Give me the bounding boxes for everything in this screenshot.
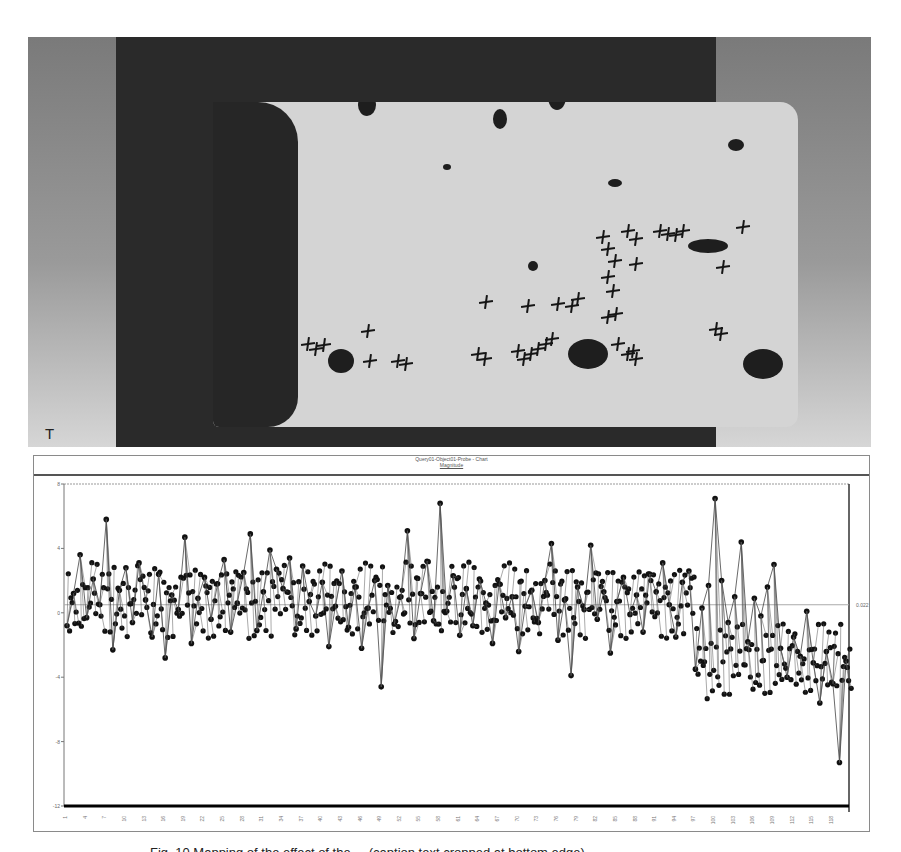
data-point bbox=[763, 633, 768, 638]
x-tick-label: 91 bbox=[651, 816, 657, 822]
cross-marker-icon bbox=[606, 284, 620, 298]
data-point bbox=[312, 581, 317, 586]
cross-marker-icon bbox=[629, 232, 643, 246]
cross-marker-icon bbox=[609, 307, 623, 321]
x-tick-label: 55 bbox=[415, 816, 421, 822]
y-tick-label: -8 bbox=[42, 739, 60, 745]
cross-marker-icon bbox=[317, 338, 331, 352]
cross-marker-icon bbox=[478, 352, 492, 366]
x-tick-label: 52 bbox=[396, 816, 402, 822]
x-tick-label: 16 bbox=[160, 816, 166, 822]
data-point bbox=[389, 590, 394, 595]
y-tick-label: -12 bbox=[42, 803, 60, 809]
x-tick-label: 4 bbox=[82, 816, 88, 819]
data-point bbox=[430, 589, 435, 594]
damage-spot bbox=[328, 349, 354, 373]
data-point bbox=[585, 589, 590, 594]
cross-marker-icon bbox=[629, 257, 643, 271]
damage-spot bbox=[358, 102, 376, 116]
x-tick-label: 13 bbox=[141, 816, 147, 822]
y-tick-label: 8 bbox=[42, 481, 60, 487]
reference-line-label: 0.022 bbox=[856, 602, 869, 608]
cross-marker-icon bbox=[551, 297, 565, 311]
cross-marker-icon bbox=[716, 260, 730, 274]
cross-marker-icon bbox=[571, 292, 585, 306]
data-point bbox=[211, 634, 216, 639]
damage-spot bbox=[743, 349, 783, 379]
x-tick-label: 115 bbox=[808, 816, 814, 824]
data-point bbox=[545, 593, 550, 598]
x-tick-label: 64 bbox=[474, 816, 480, 822]
data-point bbox=[201, 628, 206, 633]
x-tick-label: 94 bbox=[671, 816, 677, 822]
data-point bbox=[813, 678, 818, 683]
data-point bbox=[393, 619, 398, 624]
data-point bbox=[613, 622, 618, 627]
data-point bbox=[88, 600, 93, 605]
x-tick-label: 37 bbox=[298, 816, 304, 822]
x-tick-label: 79 bbox=[573, 816, 579, 822]
cross-marker-icon bbox=[626, 344, 640, 358]
data-point bbox=[134, 611, 139, 616]
x-tick-label: 49 bbox=[376, 816, 382, 822]
data-point bbox=[626, 586, 631, 591]
data-point bbox=[638, 605, 643, 610]
data-point bbox=[371, 609, 376, 614]
data-point bbox=[633, 611, 638, 616]
cross-marker-icon bbox=[361, 324, 375, 338]
x-tick-label: 76 bbox=[553, 816, 559, 822]
damage-spot bbox=[528, 261, 538, 271]
data-point bbox=[423, 595, 428, 600]
x-tick-label: 85 bbox=[612, 816, 618, 822]
data-point bbox=[801, 656, 806, 661]
x-tick-label: 25 bbox=[219, 816, 225, 822]
y-tick-label: 4 bbox=[42, 545, 60, 551]
x-tick-label: 34 bbox=[278, 816, 284, 822]
figure-caption: Fig. 10 Mapping of the effect of the ...… bbox=[150, 842, 750, 852]
data-point bbox=[220, 609, 225, 614]
cross-marker-icon bbox=[714, 327, 728, 341]
x-tick-label: 118 bbox=[828, 816, 834, 824]
x-tick-label: 109 bbox=[769, 816, 775, 825]
x-tick-label: 61 bbox=[455, 816, 461, 822]
x-tick-label: 112 bbox=[789, 816, 795, 824]
data-point bbox=[803, 690, 808, 695]
damage-spot bbox=[568, 339, 608, 369]
data-point bbox=[322, 562, 327, 567]
magnitude-plot: 1471013161922252831343740434649525558616… bbox=[34, 456, 869, 831]
data-point bbox=[487, 592, 492, 597]
x-tick-label: 100 bbox=[710, 816, 716, 825]
data-point bbox=[651, 572, 656, 577]
data-point bbox=[836, 651, 841, 656]
scan-plate-region bbox=[213, 102, 798, 427]
data-point bbox=[749, 642, 754, 647]
data-point bbox=[402, 610, 407, 615]
cross-marker-icon bbox=[736, 220, 750, 234]
scan-image: T bbox=[28, 37, 871, 447]
data-point bbox=[447, 595, 452, 600]
cross-marker-icon bbox=[601, 270, 615, 284]
x-tick-label: 28 bbox=[239, 816, 245, 822]
x-tick-label: 10 bbox=[121, 816, 127, 822]
data-point bbox=[369, 593, 374, 598]
x-tick-label: 88 bbox=[632, 816, 638, 822]
x-tick-label: 70 bbox=[514, 816, 520, 822]
data-point bbox=[227, 593, 232, 598]
x-tick-label: 1 bbox=[62, 816, 68, 819]
damage-spot bbox=[493, 109, 507, 129]
x-tick-label: 106 bbox=[749, 816, 755, 825]
y-tick-label: -4 bbox=[42, 674, 60, 680]
data-point bbox=[299, 615, 304, 620]
x-tick-label: 19 bbox=[180, 816, 186, 822]
data-point bbox=[173, 584, 178, 589]
data-point bbox=[834, 683, 839, 688]
cross-marker-icon bbox=[676, 224, 690, 238]
x-tick-label: 40 bbox=[317, 816, 323, 822]
data-point bbox=[417, 620, 422, 625]
data-point bbox=[75, 588, 80, 593]
x-tick-label: 73 bbox=[533, 816, 539, 822]
damage-spot bbox=[548, 102, 566, 110]
y-tick-label: 0 bbox=[42, 610, 60, 616]
data-point bbox=[297, 621, 302, 626]
damage-spot bbox=[608, 179, 622, 187]
